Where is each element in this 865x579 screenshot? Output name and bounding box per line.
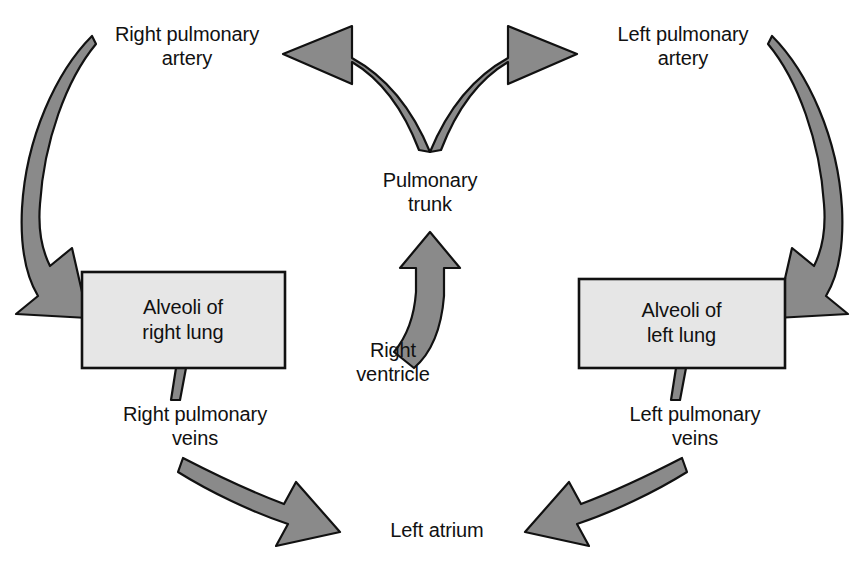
pulmonary-circulation-diagram: Right pulmonary artery Left pulmonary ar…: [0, 0, 865, 579]
box-right-lung-label: Alveoli of right lung: [81, 295, 285, 345]
label-left-pulmonary-artery: Left pulmonary artery: [588, 22, 778, 70]
label-right-pulmonary-veins: Right pulmonary veins: [100, 402, 290, 450]
arrow-left-pulmonary-veins-to-left-atrium: [525, 458, 687, 546]
label-pulmonary-trunk: Pulmonary trunk: [355, 168, 505, 216]
arrow-pulmonary-trunk-to-left-pulmonary-artery: [430, 26, 577, 152]
arrow-left-pulmonary-artery-to-left-lung: [768, 36, 848, 318]
label-left-atrium: Left atrium: [372, 518, 502, 542]
stem-right-lung-to-right-pulmonary-veins: [171, 368, 186, 400]
stem-left-lung-to-left-pulmonary-veins: [671, 368, 686, 400]
label-right-pulmonary-artery: Right pulmonary artery: [92, 22, 282, 70]
box-left-lung: Alveoli of left lung: [578, 278, 785, 368]
arrow-pulmonary-trunk-to-right-pulmonary-artery: [283, 26, 430, 152]
box-right-lung: Alveoli of right lung: [81, 271, 285, 368]
label-right-ventricle: Right ventricle: [333, 338, 453, 386]
label-left-pulmonary-veins: Left pulmonary veins: [600, 402, 790, 450]
arrow-right-pulmonary-veins-to-left-atrium: [178, 458, 340, 546]
box-left-lung-label: Alveoli of left lung: [578, 298, 785, 348]
